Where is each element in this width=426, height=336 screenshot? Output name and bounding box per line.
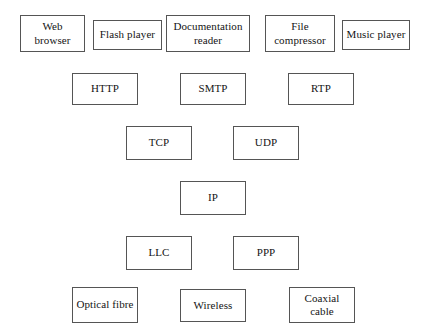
node-label: UDP [236, 136, 296, 149]
node-label: PPP [236, 246, 296, 259]
node-application-4: Music player [342, 20, 410, 50]
node-physical-1: Wireless [180, 289, 246, 322]
node-label: Wireless [183, 299, 243, 312]
node-label: Web browser [23, 20, 82, 47]
node-label: TCP [129, 136, 189, 149]
node-label: SMTP [183, 82, 243, 95]
node-application-protocol-1: SMTP [180, 73, 246, 105]
node-data-link-0: LLC [126, 236, 192, 270]
node-label: RTP [291, 82, 351, 95]
node-label: IP [183, 191, 243, 204]
node-label: Optical fibre [75, 298, 135, 311]
node-label: Music player [345, 28, 407, 41]
node-physical-2: Coaxial cable [289, 287, 355, 323]
protocol-stack-diagram: Web browserFlash playerDocumentation rea… [0, 0, 426, 336]
node-application-0: Web browser [20, 15, 85, 52]
node-label: Coaxial cable [292, 292, 352, 319]
node-label: Flash player [96, 28, 159, 41]
node-label: HTTP [75, 82, 135, 95]
node-network-0: IP [180, 181, 246, 215]
node-physical-0: Optical fibre [72, 287, 138, 323]
node-transport-0: TCP [126, 126, 192, 160]
node-label: File compressor [268, 20, 332, 47]
node-application-1: Flash player [93, 20, 162, 50]
node-label: LLC [129, 246, 189, 259]
node-application-2: Documentation reader [166, 15, 250, 52]
node-application-protocol-2: RTP [288, 73, 354, 105]
node-transport-1: UDP [233, 126, 299, 160]
node-label: Documentation reader [169, 20, 247, 47]
node-application-protocol-0: HTTP [72, 73, 138, 105]
node-application-3: File compressor [265, 15, 335, 52]
node-data-link-1: PPP [233, 236, 299, 270]
